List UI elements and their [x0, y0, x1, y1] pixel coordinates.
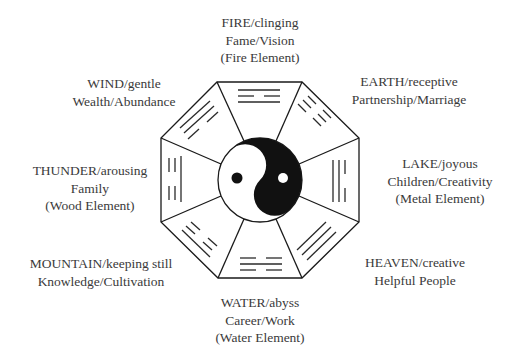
water-element: (Water Element)	[195, 329, 325, 347]
thunder-element: (Wood Element)	[20, 197, 160, 215]
label-fire: FIRE/clinging Fame/Vision (Fire Element)	[195, 14, 325, 67]
trigram-thunder	[169, 156, 181, 202]
wind-title: WIND/gentle	[64, 75, 184, 93]
yin-yang-symbol	[215, 121, 319, 225]
trigram-water	[240, 258, 282, 270]
trigram-wind	[180, 101, 218, 139]
label-water: WATER/abyss Career/Work (Water Element)	[195, 294, 325, 347]
fire-element: (Fire Element)	[195, 49, 325, 67]
label-earth: EARTH/receptive Partnership/Marriage	[334, 73, 484, 108]
fire-area: Fame/Vision	[195, 32, 325, 50]
label-mountain: MOUNTAIN/keeping still Knowledge/Cultiva…	[18, 255, 184, 290]
water-title: WATER/abyss	[195, 294, 325, 312]
thunder-title: THUNDER/arousing	[20, 162, 160, 180]
trigram-heaven	[297, 222, 336, 260]
heaven-area: Helpful People	[350, 272, 480, 290]
thunder-area: Family	[20, 180, 160, 198]
fire-title: FIRE/clinging	[195, 14, 325, 32]
earth-area: Partnership/Marriage	[334, 91, 484, 109]
label-lake: LAKE/joyous Children/Creativity (Metal E…	[372, 155, 508, 208]
label-thunder: THUNDER/arousing Family (Wood Element)	[20, 162, 160, 215]
label-wind: WIND/gentle Wealth/Abundance	[64, 75, 184, 110]
lake-title: LAKE/joyous	[372, 155, 508, 173]
heaven-title: HEAVEN/creative	[350, 254, 480, 272]
water-area: Career/Work	[195, 312, 325, 330]
lake-element: (Metal Element)	[372, 190, 508, 208]
trigram-mountain	[182, 222, 217, 257]
mountain-title: MOUNTAIN/keeping still	[18, 255, 184, 273]
mountain-area: Knowledge/Cultivation	[18, 273, 184, 291]
label-heaven: HEAVEN/creative Helpful People	[350, 254, 480, 289]
trigram-earth	[298, 96, 331, 126]
lake-area: Children/Creativity	[372, 173, 508, 191]
trigram-fire	[238, 90, 280, 102]
earth-title: EARTH/receptive	[334, 73, 484, 91]
trigram-lake	[333, 160, 345, 202]
wind-area: Wealth/Abundance	[64, 93, 184, 111]
